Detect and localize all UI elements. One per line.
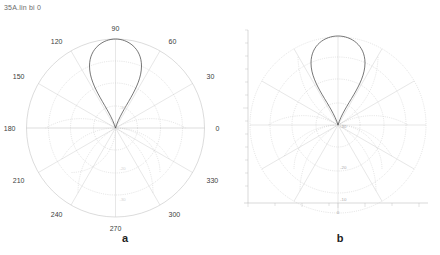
panel-b-radial-label-1: -20 <box>340 165 347 170</box>
panel-b-polar-plot: 0 <box>232 20 437 220</box>
panel-a-radial-label-2: -30 <box>120 197 127 202</box>
panel-b-y-axis-ticks <box>243 30 248 186</box>
panel-b-radial-label-2: -10 <box>340 197 347 202</box>
polar-petal-arc-8 <box>46 119 116 128</box>
panel-b-petal-arc-1 <box>338 125 382 169</box>
panel-b-polar-grid: -30 -20 -10 <box>250 36 426 213</box>
panel-a-angle-label-0: 0 <box>216 125 220 132</box>
panel-a-radial-label-1: -20 <box>120 166 127 171</box>
panel-a-radial-label-0: -10 <box>120 105 127 110</box>
polar-petal-arc-2 <box>71 128 116 173</box>
panel-a-polar-grid: -10 -20 -30 0 30 60 90 120 150 180 210 2… <box>4 25 220 232</box>
figure-root: 35A.lin bi 0 <box>0 0 440 255</box>
panel-b-x-tick-label-0: 0 <box>337 210 340 215</box>
panel-a-angle-label-30: 30 <box>207 73 215 80</box>
panel-a-angle-label-240: 240 <box>51 211 63 218</box>
figure-header-text: 35A.lin bi 0 <box>4 4 41 11</box>
panel-b-x-axis-ticks <box>248 203 419 208</box>
panel-a-svg: -10 -20 -30 0 30 60 90 120 150 180 210 2… <box>8 20 223 220</box>
panel-a-angle-label-120: 120 <box>51 38 63 45</box>
panel-b-petal-arc-7 <box>338 116 408 125</box>
panel-a-angle-label-180: 180 <box>4 125 16 132</box>
panel-a-polar-plot: -10 -20 -30 0 30 60 90 120 150 180 210 2… <box>8 20 223 220</box>
panel-a-angle-label-330: 330 <box>207 177 219 184</box>
panel-b-svg: 0 <box>232 20 437 220</box>
panel-b-petal-arc-2 <box>294 125 338 169</box>
panel-a-angle-label-210: 210 <box>13 177 25 184</box>
panel-b-caption: b <box>320 232 360 244</box>
panel-a-angle-label-300: 300 <box>169 211 181 218</box>
polar-petal-arc-7 <box>116 119 186 128</box>
panel-b-petal-arc-8 <box>268 116 338 125</box>
panel-a-caption: a <box>105 232 145 244</box>
panel-a-angle-label-90: 90 <box>112 25 120 32</box>
panel-a-angle-label-150: 150 <box>13 73 25 80</box>
panel-a-angle-label-270: 270 <box>110 225 122 232</box>
panel-b-radial-label-0: -30 <box>340 124 347 129</box>
panel-a-angle-label-60: 60 <box>169 38 177 45</box>
